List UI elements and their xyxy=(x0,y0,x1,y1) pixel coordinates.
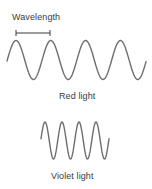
wave-diagram xyxy=(0,0,152,189)
violet-light-wave xyxy=(41,122,109,159)
red-light-wave xyxy=(7,41,146,80)
wavelength-marker xyxy=(16,30,50,36)
